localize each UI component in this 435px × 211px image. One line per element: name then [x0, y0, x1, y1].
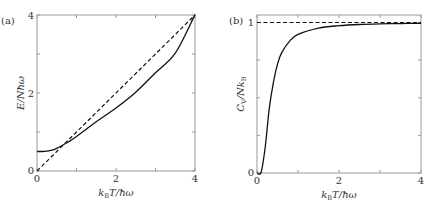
panel-a-ytick-4: 4	[28, 10, 34, 21]
panel-b-quantum-curve	[257, 23, 421, 174]
panel-b-ticks	[257, 15, 421, 173]
panel-a: (a) 0 2 4 0 2 4 kBT/ħω E/Nħω	[1, 10, 198, 200]
figure: (a) 0 2 4 0 2 4 kBT/ħω E/Nħω (b) 0 1 0 2…	[0, 0, 435, 211]
panel-b-axes-box	[257, 15, 421, 173]
panel-a-quantum-curve	[37, 15, 195, 152]
panel-a-ylabel: E/Nħω	[15, 76, 26, 111]
panel-a-xtick-4: 4	[192, 173, 198, 184]
panel-b-ylabel: CV/NkB	[235, 76, 248, 112]
panel-b-xtick-0: 0	[254, 175, 260, 186]
panel-b-xtick-2: 2	[336, 175, 342, 186]
panel-a-xtick-2: 2	[113, 173, 119, 184]
panel-a-xtick-0: 0	[34, 173, 40, 184]
panel-a-classical-line	[37, 15, 195, 171]
panel-b-xlabel: kBT/ħω	[321, 189, 356, 202]
panel-b-ytick-1: 1	[248, 17, 254, 28]
panel-b-label: (b)	[229, 15, 243, 26]
panel-a-ytick-2: 2	[28, 88, 34, 99]
panel-a-xlabel: kBT/ħω	[98, 187, 133, 200]
panel-b: (b) 0 1 0 2 4 kBT/ħω CV/NkB	[229, 15, 424, 202]
panel-a-label: (a)	[1, 15, 15, 26]
panel-b-xtick-4: 4	[418, 175, 424, 186]
